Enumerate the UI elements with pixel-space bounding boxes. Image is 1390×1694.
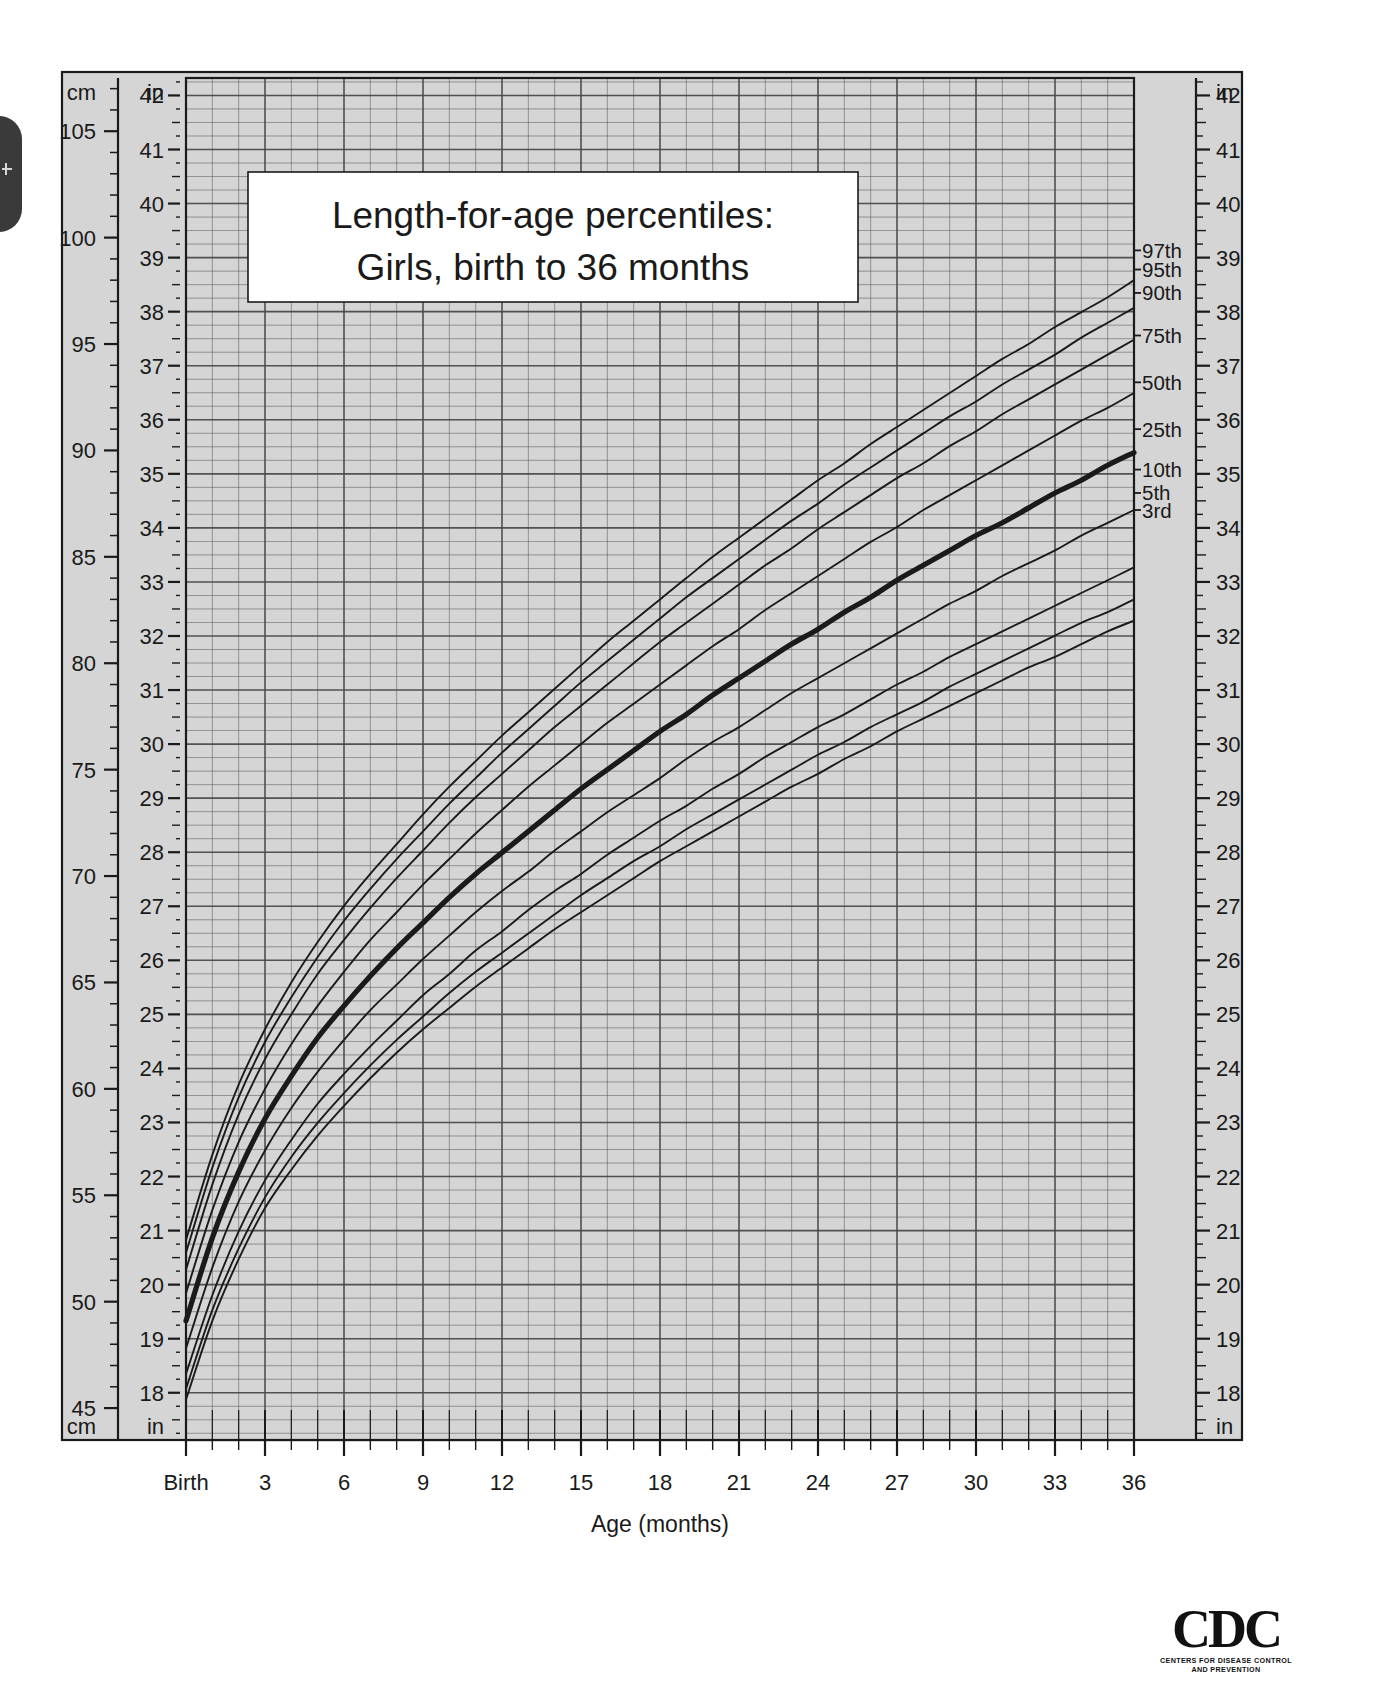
x-tick-label-9: 9 <box>417 1470 429 1495</box>
x-tick-label-18: 18 <box>648 1470 672 1495</box>
in-tick-label-right-23: 23 <box>1216 1110 1240 1135</box>
cm-tick-label-90: 90 <box>72 438 96 463</box>
percentile-label-50th: 50th <box>1142 371 1182 394</box>
in-tick-label-right-30: 30 <box>1216 732 1240 757</box>
in-tick-label-left-40: 40 <box>140 192 164 217</box>
in-tick-label-right-34: 34 <box>1216 516 1240 541</box>
in-tick-label-left-33: 33 <box>140 570 164 595</box>
in-tick-label-right-37: 37 <box>1216 354 1240 379</box>
in-tick-label-right-40: 40 <box>1216 192 1240 217</box>
in-tick-label-left-21: 21 <box>140 1219 164 1244</box>
cdc-logo: CDC CENTERS FOR DISEASE CONTROL AND PREV… <box>1136 1602 1316 1674</box>
x-axis-title: Age (months) <box>591 1511 729 1537</box>
cm-tick-label-55: 55 <box>72 1183 96 1208</box>
x-tick-label-6: 6 <box>338 1470 350 1495</box>
in-tick-label-left-24: 24 <box>140 1056 164 1081</box>
in-tick-label-left-31: 31 <box>140 678 164 703</box>
cm-tick-label-105: 105 <box>59 119 96 144</box>
x-tick-label-15: 15 <box>569 1470 593 1495</box>
x-tick-label-24: 24 <box>806 1470 830 1495</box>
percentile-label-90th: 90th <box>1142 281 1182 304</box>
in-tick-label-left-18: 18 <box>140 1381 164 1406</box>
in-tick-label-left-39: 39 <box>140 246 164 271</box>
percentile-label-3rd: 3rd <box>1142 499 1172 522</box>
cm-tick-label-95: 95 <box>72 332 96 357</box>
in-tick-label-right-28: 28 <box>1216 840 1240 865</box>
in-tick-label-left-41: 41 <box>140 138 164 163</box>
percentile-label-25th: 25th <box>1142 418 1182 441</box>
in-tick-label-left-26: 26 <box>140 948 164 973</box>
in-tick-label-right-39: 39 <box>1216 246 1240 271</box>
in-tick-label-right-38: 38 <box>1216 300 1240 325</box>
in-tick-label-right-22: 22 <box>1216 1165 1240 1190</box>
in-tick-label-left-36: 36 <box>140 408 164 433</box>
x-tick-label-Birth: Birth <box>163 1470 208 1495</box>
in-unit-bottom-left: in <box>147 1414 164 1439</box>
in-tick-label-right-35: 35 <box>1216 462 1240 487</box>
cm-tick-label-80: 80 <box>72 651 96 676</box>
cm-tick-label-60: 60 <box>72 1077 96 1102</box>
cm-unit-top: cm <box>67 80 96 105</box>
in-tick-label-right-25: 25 <box>1216 1002 1240 1027</box>
cm-tick-label-65: 65 <box>72 970 96 995</box>
length-for-age-chart: 97th95th90th75th50th25th10th5th3rd105100… <box>0 0 1390 1694</box>
in-tick-label-left-20: 20 <box>140 1273 164 1298</box>
cm-tick-label-75: 75 <box>72 758 96 783</box>
cm-tick-label-70: 70 <box>72 864 96 889</box>
chart-title-line-2: Girls, birth to 36 months <box>357 247 750 288</box>
x-tick-label-36: 36 <box>1122 1470 1146 1495</box>
cm-tick-label-85: 85 <box>72 545 96 570</box>
in-tick-label-left-34: 34 <box>140 516 164 541</box>
in-tick-label-right-26: 26 <box>1216 948 1240 973</box>
in-tick-label-left-19: 19 <box>140 1327 164 1352</box>
in-tick-label-left-25: 25 <box>140 1002 164 1027</box>
in-unit-top-left: in <box>147 80 164 105</box>
in-tick-label-right-27: 27 <box>1216 894 1240 919</box>
in-tick-label-left-35: 35 <box>140 462 164 487</box>
cm-unit-bottom: cm <box>67 1414 96 1439</box>
in-tick-label-right-41: 41 <box>1216 138 1240 163</box>
chart-title-line-1: Length-for-age percentiles: <box>332 195 774 236</box>
in-tick-label-left-32: 32 <box>140 624 164 649</box>
in-tick-label-right-21: 21 <box>1216 1219 1240 1244</box>
in-tick-label-left-30: 30 <box>140 732 164 757</box>
in-tick-label-left-29: 29 <box>140 786 164 811</box>
cdc-wordmark: CDC <box>1136 1602 1316 1656</box>
percentile-label-10th: 10th <box>1142 458 1182 481</box>
in-tick-label-right-33: 33 <box>1216 570 1240 595</box>
x-tick-label-3: 3 <box>259 1470 271 1495</box>
x-tick-label-12: 12 <box>490 1470 514 1495</box>
in-tick-label-left-38: 38 <box>140 300 164 325</box>
in-tick-label-left-37: 37 <box>140 354 164 379</box>
x-tick-label-27: 27 <box>885 1470 909 1495</box>
x-tick-label-33: 33 <box>1043 1470 1067 1495</box>
in-unit-top-right: in <box>1216 80 1233 105</box>
cdc-tagline-line2: AND PREVENTION <box>1136 1665 1316 1674</box>
in-tick-label-right-32: 32 <box>1216 624 1240 649</box>
in-tick-label-left-27: 27 <box>140 894 164 919</box>
in-tick-label-right-31: 31 <box>1216 678 1240 703</box>
in-tick-label-right-18: 18 <box>1216 1381 1240 1406</box>
cdc-tagline-line1: CENTERS FOR DISEASE CONTROL <box>1136 1656 1316 1665</box>
cm-tick-label-100: 100 <box>59 226 96 251</box>
in-unit-bottom-right: in <box>1216 1414 1233 1439</box>
x-tick-label-21: 21 <box>727 1470 751 1495</box>
in-tick-label-left-28: 28 <box>140 840 164 865</box>
percentile-label-75th: 75th <box>1142 324 1182 347</box>
in-tick-label-left-22: 22 <box>140 1165 164 1190</box>
percentile-label-95th: 95th <box>1142 258 1182 281</box>
growth-chart-page: 97th95th90th75th50th25th10th5th3rd105100… <box>0 0 1390 1694</box>
in-tick-label-right-19: 19 <box>1216 1327 1240 1352</box>
in-tick-label-right-24: 24 <box>1216 1056 1240 1081</box>
in-tick-label-left-23: 23 <box>140 1110 164 1135</box>
in-tick-label-right-36: 36 <box>1216 408 1240 433</box>
cm-tick-label-50: 50 <box>72 1290 96 1315</box>
in-tick-label-right-20: 20 <box>1216 1273 1240 1298</box>
x-tick-label-30: 30 <box>964 1470 988 1495</box>
in-tick-label-right-29: 29 <box>1216 786 1240 811</box>
